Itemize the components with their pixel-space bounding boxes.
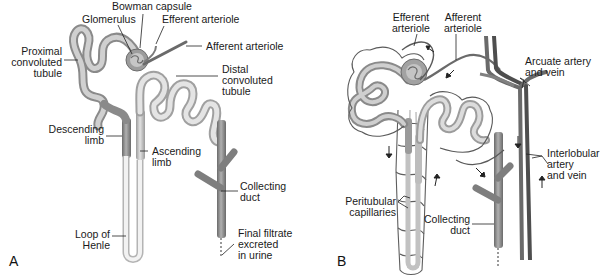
label-loop-of-henle: Loop of Henle xyxy=(60,229,110,251)
label-distal-convoluted-tubule: Distal convoluted tubule xyxy=(222,64,273,97)
label-descending-limb: Descending limb xyxy=(44,124,104,146)
label-bowman-capsule: Bowman capsule xyxy=(112,1,192,12)
label-arcuate-artery-vein: Arcuate artery and vein xyxy=(525,56,591,78)
loop-of-henle xyxy=(126,156,140,260)
distal-tubule-b xyxy=(420,92,492,153)
label-proximal-convoluted-tubule: Proximal convoluted tubule xyxy=(6,46,62,79)
label-collecting-duct-b: Collecting duct xyxy=(424,214,470,236)
label-interlobular-artery-vein: Interlobular artery and vein xyxy=(547,148,600,181)
proximal-convoluted-tubule xyxy=(73,29,140,126)
ascending-limb xyxy=(136,110,145,160)
descending-limb xyxy=(104,104,131,158)
label-peritubular-capillaries: Peritubular capillaries xyxy=(330,196,396,218)
label-glomerulus: Glomerulus xyxy=(82,14,136,25)
glomerulus-b xyxy=(401,59,427,85)
panel-letter-b: B xyxy=(337,253,346,269)
arterioles xyxy=(144,42,186,64)
label-ascending-limb: Ascending limb xyxy=(152,146,201,168)
label-afferent-arteriole-b: Afferent arteriole xyxy=(444,12,482,34)
label-efferent-arteriole-b: Efferent arteriole xyxy=(392,12,430,34)
distal-convoluted-tubule xyxy=(140,75,220,142)
panel-letter-a: A xyxy=(9,253,18,269)
label-final-filtrate: Final filtrate excreted in urine xyxy=(238,228,292,261)
bowman-capsule xyxy=(126,49,148,71)
panel-b-drawing xyxy=(348,34,548,275)
nephron-diagram: Bowman capsule Glomerulus Efferent arter… xyxy=(0,0,606,278)
label-collecting-duct-a: Collecting duct xyxy=(240,181,286,203)
label-afferent-arteriole-a: Afferent arteriole xyxy=(206,41,283,52)
label-efferent-arteriole-a: Efferent arteriole xyxy=(162,14,239,25)
